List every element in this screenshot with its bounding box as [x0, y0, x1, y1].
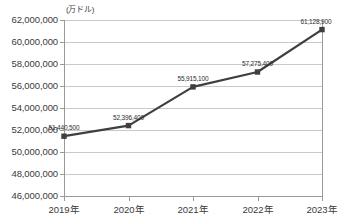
- data-point-marker: [126, 123, 131, 128]
- series-markers: [61, 27, 324, 139]
- line-chart: (万ドル) 62,000,00060,000,00058,000,00056,0…: [0, 0, 338, 219]
- data-point-marker: [319, 27, 324, 32]
- data-point-label: 61,128,900: [300, 18, 331, 25]
- data-point-marker: [255, 69, 260, 74]
- data-point-marker: [190, 84, 195, 89]
- data-point-label: 55,915,100: [177, 75, 208, 82]
- data-point-label: 57,275,400: [242, 60, 273, 67]
- data-point-label: 52,396,400: [113, 114, 144, 121]
- data-point-marker: [61, 134, 66, 139]
- data-point-label: 51,440,500: [48, 124, 79, 131]
- series-line-layer: [0, 0, 338, 219]
- series-polyline: [64, 30, 322, 137]
